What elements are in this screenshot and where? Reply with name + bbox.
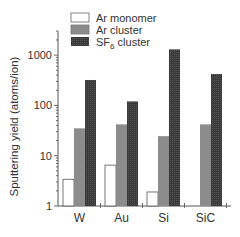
bars (63, 49, 222, 206)
bar-sf6-cluster-si (169, 49, 180, 206)
y-tick-label: 10 (40, 150, 52, 162)
bar-sf6-cluster-au (127, 101, 138, 206)
y-tick-label: 1 (46, 200, 52, 212)
bar-ar-monomer-w (63, 179, 74, 206)
legend-label: SF6 cluster (96, 36, 150, 51)
x-tick-label: SiC (196, 211, 216, 225)
bar-ar-monomer-au (105, 165, 116, 206)
bar-sf6-cluster-w (85, 80, 96, 206)
x-tick-label: Au (114, 211, 129, 225)
y-tick-label: 100 (34, 99, 52, 111)
legend-label: Ar monomer (96, 12, 157, 24)
legend-swatch-ar-monomer (71, 13, 89, 22)
legend-swatch-sf6-cluster (71, 37, 89, 46)
bar-ar-cluster-sic (200, 124, 211, 206)
legend-swatch-ar-cluster (71, 25, 89, 34)
bar-sf6-cluster-sic (211, 74, 222, 206)
x-tick-label: Si (158, 211, 169, 225)
legend-label: Ar cluster (96, 24, 143, 36)
legend: Ar monomerAr clusterSF6 cluster (71, 12, 157, 51)
bar-ar-cluster-w (74, 128, 85, 206)
y-tick-label: 1000 (28, 49, 52, 61)
y-ticks: 1101001000 (28, 31, 58, 212)
x-tick-label: W (74, 211, 86, 225)
x-tick-labels: WAuSiSiC (74, 211, 216, 225)
bar-ar-cluster-si (158, 136, 169, 206)
bar-ar-monomer-si (147, 192, 158, 206)
bar-ar-cluster-au (116, 124, 127, 206)
chart: 1101001000 WAuSiSiC Sputtering yield (at… (0, 0, 240, 237)
y-axis-label: Sputtering yield (atoms/ion) (8, 56, 20, 196)
